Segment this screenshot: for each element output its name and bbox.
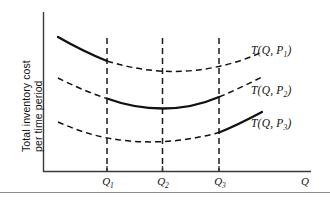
x-tick-label-q1-sub: 1	[110, 181, 114, 190]
curve-label-p1-base: T(Q, P	[251, 44, 284, 56]
curve-label-p3-sub: 3	[284, 123, 288, 132]
chart-plot-svg	[0, 0, 330, 200]
curve-label-p2-sub: 2	[284, 90, 288, 99]
x-tick-label-q1: Q1	[97, 175, 119, 187]
curve-t-q-p1-solid	[58, 37, 107, 61]
x-tick-label-q2: Q2	[152, 175, 174, 187]
bottom-divider	[0, 192, 330, 193]
curve-label-p1-sub: 1	[284, 50, 288, 59]
curve-t-q-p2-dashed-left	[58, 78, 107, 99]
curve-label-p1-tail: )	[287, 44, 291, 56]
curve-label-t-q-p1: T(Q, P1)	[251, 44, 292, 56]
curve-label-t-q-p2: T(Q, P2)	[251, 84, 292, 96]
curve-label-p3-base: T(Q, P	[251, 117, 284, 129]
x-tick-label-q3-sub: 3	[222, 181, 226, 190]
x-tick-label-q3: Q3	[209, 175, 231, 187]
curve-label-p3-tail: )	[287, 117, 291, 129]
curve-label-p2-base: T(Q, P	[251, 84, 284, 96]
curve-t-q-p1-dashed	[107, 52, 262, 72]
x-tick-label-q2-base: Q	[157, 175, 165, 187]
x-axis-label: Q	[296, 175, 314, 187]
curve-label-t-q-p3: T(Q, P3)	[251, 117, 292, 129]
x-tick-label-q3-base: Q	[214, 175, 222, 187]
figure-canvas: Total inventory cost per time period T(Q…	[0, 0, 330, 200]
curve-label-p2-tail: )	[287, 84, 291, 96]
x-tick-label-q2-sub: 2	[165, 181, 169, 190]
curve-t-q-p3-dashed	[58, 122, 219, 142]
x-tick-label-q1-base: Q	[102, 175, 110, 187]
